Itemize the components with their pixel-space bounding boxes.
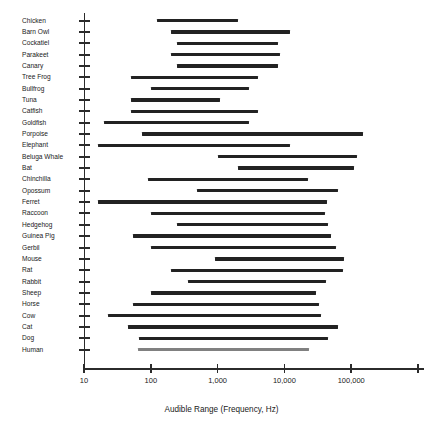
x-axis-tick-label: 1,000 — [208, 376, 227, 385]
y-axis-tick — [79, 247, 90, 249]
range-bar — [188, 280, 326, 283]
range-bar — [171, 53, 280, 56]
y-axis-tick — [79, 212, 90, 214]
range-bar — [142, 132, 363, 135]
range-bar — [131, 110, 258, 113]
plot-area: ChickenBarn OwlCockatielParakeetCanaryTr… — [0, 0, 443, 400]
x-axis-tick — [284, 364, 286, 373]
y-axis-tick — [79, 349, 90, 351]
y-axis-tick — [79, 337, 90, 339]
species-label: Canary — [22, 62, 43, 69]
range-bar — [151, 291, 316, 294]
species-label: Tuna — [22, 96, 37, 103]
range-bar — [131, 76, 258, 79]
species-label: Bullfrog — [22, 85, 44, 92]
species-label: Sheep — [22, 289, 41, 296]
range-bar — [151, 212, 325, 215]
species-label: Gerbil — [22, 244, 40, 251]
range-bar — [151, 87, 250, 90]
range-bar — [151, 246, 337, 249]
range-bar — [218, 155, 358, 158]
y-axis-tick — [79, 258, 90, 260]
species-label: Raccoon — [22, 209, 48, 216]
x-axis-tick — [417, 364, 419, 373]
range-bar — [133, 234, 331, 237]
range-bar — [177, 223, 328, 226]
y-axis-tick — [79, 133, 90, 135]
range-bar — [131, 98, 221, 101]
y-axis-tick — [79, 178, 90, 180]
x-axis-tick — [150, 364, 152, 373]
species-label: Mouse — [22, 255, 42, 262]
species-label: Chinchilla — [22, 175, 51, 182]
range-bar — [133, 303, 319, 306]
range-bar — [177, 64, 278, 67]
range-bar — [148, 178, 308, 181]
x-axis-tick — [350, 364, 352, 373]
x-axis-tick-label: 10,000 — [273, 376, 296, 385]
y-axis-tick — [79, 326, 90, 328]
species-label: Cow — [22, 312, 35, 319]
species-label: Horse — [22, 300, 40, 307]
species-label: Elephant — [22, 141, 48, 148]
range-bar — [197, 189, 338, 192]
species-label: Cat — [22, 323, 32, 330]
y-axis-tick — [79, 167, 90, 169]
range-bar — [108, 314, 321, 317]
y-axis-tick — [79, 42, 90, 44]
species-label: Barn Owl — [22, 28, 49, 35]
y-axis-tick — [79, 235, 90, 237]
range-bar — [138, 348, 309, 351]
y-axis-tick — [79, 76, 90, 78]
x-axis-tick-label: 10 — [80, 376, 88, 385]
y-axis-tick — [79, 122, 90, 124]
y-axis-tick — [79, 110, 90, 112]
y-axis-tick — [79, 281, 90, 283]
species-label: Porpoise — [22, 130, 48, 137]
species-label: Opossum — [22, 187, 50, 194]
species-label: Hedgehog — [22, 221, 52, 228]
y-axis-tick — [79, 224, 90, 226]
y-axis-tick — [79, 156, 90, 158]
y-axis-tick — [79, 20, 90, 22]
x-axis-tick — [217, 364, 219, 373]
range-bar — [104, 121, 249, 124]
y-axis-tick — [79, 31, 90, 33]
range-bar — [238, 166, 354, 169]
range-bar — [98, 200, 328, 203]
species-label: Chicken — [22, 17, 46, 24]
species-label: Goldfish — [22, 119, 46, 126]
species-label: Rabbit — [22, 278, 41, 285]
species-label: Guinea Pig — [22, 232, 55, 239]
y-axis-tick — [79, 190, 90, 192]
range-bar — [171, 30, 290, 33]
y-axis-tick — [79, 65, 90, 67]
species-label: Rat — [22, 266, 32, 273]
x-axis-line — [84, 368, 424, 370]
range-bar — [139, 337, 328, 340]
species-label: Beluga Whale — [22, 153, 63, 160]
y-axis-tick — [79, 99, 90, 101]
y-axis-tick — [79, 201, 90, 203]
species-label: Tree Frog — [22, 73, 51, 80]
y-axis-tick — [79, 315, 90, 317]
species-label: Ferret — [22, 198, 40, 205]
range-bar — [215, 257, 345, 260]
x-axis-title: Audible Range (Frequency, Hz) — [0, 405, 443, 414]
range-bar — [171, 269, 343, 272]
species-label: Cockatiel — [22, 39, 49, 46]
y-axis-tick — [79, 292, 90, 294]
species-label: Dog — [22, 334, 34, 341]
y-axis-tick — [79, 54, 90, 56]
audible-range-chart: ChickenBarn OwlCockatielParakeetCanaryTr… — [0, 0, 443, 433]
species-label: Catfish — [22, 107, 43, 114]
x-axis-tick — [83, 364, 85, 373]
range-bar — [157, 19, 237, 22]
range-bar — [128, 325, 339, 328]
x-axis-tick-label: 100,000 — [338, 376, 365, 385]
x-axis-tick-label: 100 — [145, 376, 158, 385]
y-axis-tick — [79, 303, 90, 305]
y-axis-tick — [79, 269, 90, 271]
species-label: Bat — [22, 164, 32, 171]
y-axis-tick — [79, 144, 90, 146]
